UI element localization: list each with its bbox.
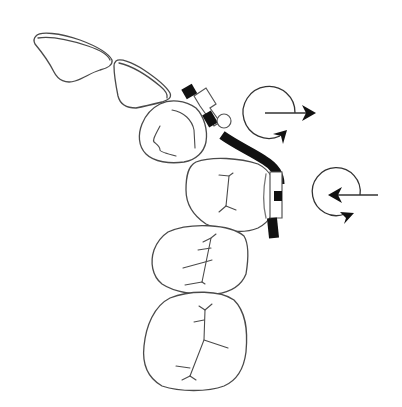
dental-diagram — [0, 0, 402, 407]
tooth-premolar-1 — [186, 158, 276, 231]
tooth-premolar-2 — [152, 226, 248, 295]
wire-loop — [217, 114, 231, 128]
tooth-canine — [139, 101, 206, 163]
tooth-incisor-1 — [34, 33, 112, 82]
rotation-arrow-upper-icon — [243, 86, 316, 144]
rotation-arrow-lower-icon — [312, 168, 378, 224]
tooth-incisor-2 — [114, 60, 171, 108]
tooth-molar — [144, 292, 247, 390]
